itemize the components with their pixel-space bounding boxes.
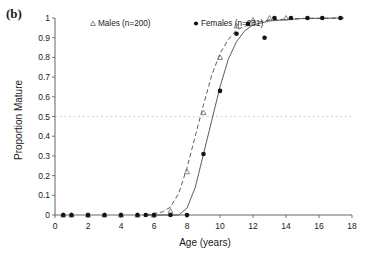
x-axis-title: Age (years) <box>179 237 231 248</box>
data-point-females-1 <box>69 213 74 218</box>
y-tick-label-0: 0 <box>45 210 50 220</box>
data-point-females-6 <box>143 213 148 218</box>
figure-panel: (b) 00.10.20.30.40.50.60.70.80.910246810… <box>0 0 370 253</box>
data-point-males-7 <box>168 209 173 214</box>
data-point-females-16 <box>289 16 294 21</box>
legend-label-males: Males (n=200) <box>98 19 151 28</box>
x-tick-label-5: 10 <box>215 221 225 231</box>
y-tick-label-8: 0.8 <box>38 52 50 62</box>
x-tick-label-1: 2 <box>86 221 91 231</box>
data-point-females-17 <box>305 16 310 21</box>
data-point-females-2 <box>86 213 91 218</box>
data-point-females-7 <box>152 213 157 218</box>
y-tick-label-7: 0.7 <box>38 72 50 82</box>
x-tick-label-7: 14 <box>281 221 291 231</box>
x-tick-label-8: 16 <box>314 221 324 231</box>
data-point-females-0 <box>61 213 66 218</box>
legend-label-females: Females (n=231) <box>201 19 263 28</box>
y-tick-label-6: 0.6 <box>38 92 50 102</box>
x-tick-label-3: 6 <box>152 221 157 231</box>
data-point-females-19 <box>338 16 343 21</box>
tick-labels: 00.10.20.30.40.50.60.70.80.9102468101214… <box>38 13 357 231</box>
data-point-males-13 <box>267 16 272 21</box>
chart-legend: Males (n=200)Females (n=231) <box>91 19 264 28</box>
y-tick-label-1: 0.1 <box>38 190 50 200</box>
data-point-females-5 <box>135 213 140 218</box>
data-point-females-10 <box>201 152 206 157</box>
data-point-females-11 <box>218 89 223 94</box>
axes <box>52 18 352 218</box>
x-tick-label-4: 8 <box>185 221 190 231</box>
data-point-females-12 <box>234 31 239 36</box>
legend-marker-females <box>194 21 198 25</box>
x-tick-label-6: 12 <box>248 221 258 231</box>
data-point-females-8 <box>168 213 173 218</box>
y-tick-label-5: 0.5 <box>38 112 50 122</box>
y-tick-label-4: 0.4 <box>38 131 50 141</box>
y-axis-title: Proportion Mature <box>13 80 24 160</box>
x-tick-label-9: 18 <box>347 221 357 231</box>
y-tick-label-10: 1 <box>45 13 50 23</box>
y-tick-label-3: 0.3 <box>38 151 50 161</box>
data-point-females-18 <box>320 16 325 21</box>
x-tick-label-0: 0 <box>53 221 58 231</box>
panel-label: (b) <box>6 6 22 22</box>
chart-canvas: 00.10.20.30.40.50.60.70.80.9102468101214… <box>0 0 370 253</box>
data-point-females-15 <box>272 16 277 21</box>
data-point-males-8 <box>185 169 190 174</box>
data-point-females-9 <box>185 213 190 218</box>
data-point-females-3 <box>102 213 107 218</box>
legend-marker-males <box>91 21 96 25</box>
data-point-females-4 <box>119 213 124 218</box>
y-tick-label-2: 0.2 <box>38 171 50 181</box>
y-tick-label-9: 0.9 <box>38 33 50 43</box>
data-point-females-14 <box>262 35 267 40</box>
x-tick-label-2: 4 <box>119 221 124 231</box>
